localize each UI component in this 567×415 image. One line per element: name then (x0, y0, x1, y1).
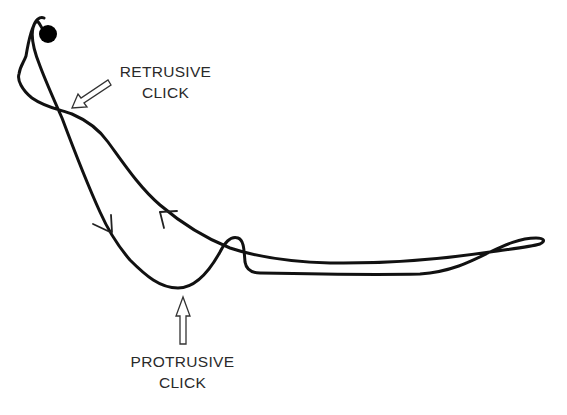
protrusive-label-line2: CLICK (120, 372, 245, 393)
jaw-tracing-diagram (0, 0, 567, 415)
retrusive-label-line2: CLICK (113, 82, 218, 103)
protrusive-click-arrow-icon (176, 297, 190, 344)
movement-trace (19, 17, 544, 288)
retrusive-click-arrow-icon (72, 80, 111, 108)
retrusive-click-label: RETRUSIVE CLICK (113, 61, 218, 103)
protrusive-label-line1: PROTRUSIVE (120, 351, 245, 372)
retrusive-label-line1: RETRUSIVE (113, 61, 218, 82)
protrusive-click-label: PROTRUSIVE CLICK (120, 351, 245, 393)
trace-outgoing-path (19, 17, 544, 288)
start-marker-circle (39, 25, 57, 43)
